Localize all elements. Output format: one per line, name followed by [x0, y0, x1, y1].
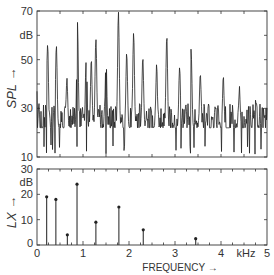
lx-stem-marker — [194, 237, 197, 240]
lx-ytick-30: 30 — [21, 163, 33, 175]
lx-stem-marker — [66, 233, 69, 236]
lx-ytick-0: 0 — [27, 237, 33, 249]
x-tick-3: 3 — [172, 247, 178, 259]
spl-plot: 70 dB 50 30 10 SPL → — [4, 5, 267, 163]
lx-stem-marker — [117, 205, 120, 208]
lx-stem-marker — [142, 228, 145, 231]
lx-ytick-10: 10 — [21, 214, 33, 226]
spl-ytick-30: 30 — [21, 102, 33, 114]
spl-ytick-50: 50 — [21, 54, 33, 66]
lx-stem-marker — [54, 198, 57, 201]
lx-plot: 30 dB 20 10 0 LX → 0 1 2 3 4 kHz 5 FREQU… — [4, 163, 270, 273]
spl-unit-label: dB — [20, 29, 33, 41]
spl-plot-frame — [37, 11, 267, 157]
spl-spectrum-trace — [37, 12, 267, 154]
lx-axis-title: LX → — [4, 196, 19, 229]
x-tick-0: 0 — [34, 247, 40, 259]
spl-axis-title: SPL → — [4, 68, 19, 109]
x-tick-1: 1 — [80, 247, 86, 259]
lx-unit-label: dB — [20, 176, 33, 188]
x-unit-label: kHz — [237, 247, 256, 259]
lx-stems — [45, 183, 197, 245]
lx-axis-ticks — [37, 169, 267, 245]
lx-stem-marker — [75, 183, 78, 186]
x-tick-5: 5 — [264, 247, 270, 259]
lx-plot-frame — [37, 169, 267, 245]
x-tick-4: 4 — [218, 247, 224, 259]
spl-ytick-10: 10 — [21, 151, 33, 163]
spl-ytick-70: 70 — [21, 5, 33, 17]
lx-stem-marker — [94, 221, 97, 224]
lx-stem-marker — [45, 195, 48, 198]
x-tick-2: 2 — [126, 247, 132, 259]
lx-ytick-20: 20 — [21, 188, 33, 200]
x-axis-title: FREQUENCY → — [142, 262, 217, 273]
spl-axis-ticks — [37, 11, 267, 157]
chart-figure: 70 dB 50 30 10 SPL → 30 dB 20 10 0 LX → … — [0, 0, 274, 275]
